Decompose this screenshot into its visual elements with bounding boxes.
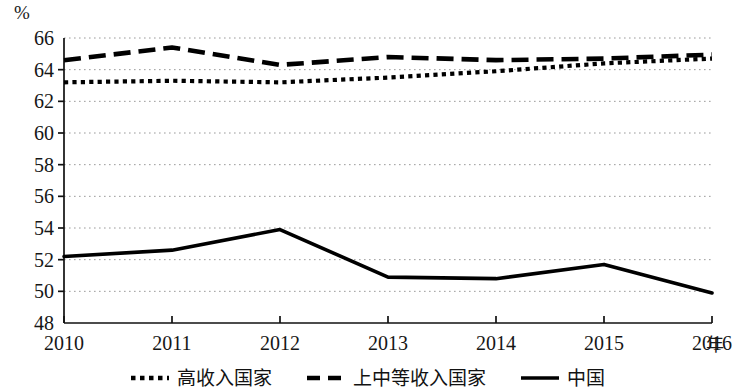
legend-item[interactable]: 中国 bbox=[520, 363, 605, 390]
series-line bbox=[64, 48, 712, 65]
legend-label: 中国 bbox=[567, 363, 605, 390]
line-chart: % 年 48505254565860626466 201020112012201… bbox=[0, 0, 735, 392]
series-line bbox=[64, 59, 712, 83]
gridlines bbox=[64, 38, 712, 291]
legend-item[interactable]: 上中等收入国家 bbox=[306, 363, 486, 390]
chart-legend: 高收入国家上中等收入国家中国 bbox=[0, 361, 735, 392]
axis-lines bbox=[64, 38, 712, 323]
plot-area bbox=[0, 0, 735, 392]
legend-line-swatch-dotted bbox=[130, 370, 170, 384]
series-line bbox=[64, 230, 712, 293]
legend-line-swatch-dashed bbox=[306, 370, 346, 384]
legend-label: 高收入国家 bbox=[177, 363, 272, 390]
data-series bbox=[64, 48, 712, 293]
legend-line-swatch-solid bbox=[520, 370, 560, 384]
legend-item[interactable]: 高收入国家 bbox=[130, 363, 272, 390]
legend-label: 上中等收入国家 bbox=[353, 363, 486, 390]
